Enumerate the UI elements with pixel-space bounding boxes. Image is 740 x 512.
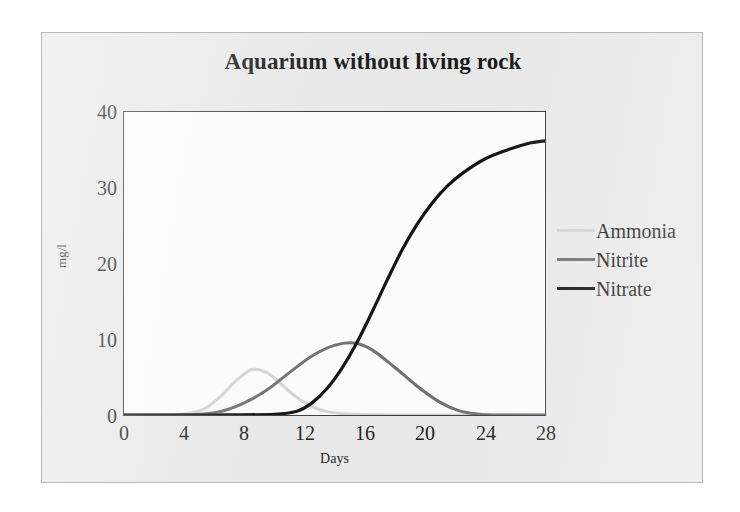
legend-item-nitrate: Nitrate xyxy=(557,274,707,303)
x-axis-tick-labels: 0 4 8 12 16 20 24 28 xyxy=(123,423,546,449)
legend-item-ammonia: Ammonia xyxy=(557,216,707,245)
series-line-ammonia xyxy=(124,369,545,415)
x-tick-0: 0 xyxy=(94,423,154,443)
figure-frame: Aquarium without living rock 40 30 20 10… xyxy=(41,32,703,483)
x-tick-12: 12 xyxy=(275,423,335,443)
x-tick-28: 28 xyxy=(516,423,576,443)
y-tick-40: 40 xyxy=(57,102,117,122)
plot-area xyxy=(123,111,546,416)
y-axis-label: mg/l xyxy=(54,226,70,286)
x-tick-20: 20 xyxy=(395,423,455,443)
legend-line-nitrate xyxy=(557,287,595,290)
x-tick-8: 8 xyxy=(214,423,274,443)
chart-title: Aquarium without living rock xyxy=(42,49,704,75)
legend-line-nitrite xyxy=(557,258,595,261)
figure-page: Aquarium without living rock 40 30 20 10… xyxy=(0,0,740,512)
legend: Ammonia Nitrite Nitrate xyxy=(557,216,707,303)
series-line-nitrate xyxy=(124,141,545,415)
y-tick-30: 30 xyxy=(57,178,117,198)
x-tick-24: 24 xyxy=(456,423,516,443)
legend-label-nitrate: Nitrate xyxy=(596,279,652,299)
plot-curves xyxy=(124,112,545,415)
x-tick-16: 16 xyxy=(335,423,395,443)
legend-item-nitrite: Nitrite xyxy=(557,245,707,274)
legend-line-ammonia xyxy=(557,229,595,232)
legend-label-nitrite: Nitrite xyxy=(596,250,648,270)
legend-label-ammonia: Ammonia xyxy=(596,221,676,241)
y-tick-10: 10 xyxy=(57,330,117,350)
x-tick-4: 4 xyxy=(154,423,214,443)
x-axis-label: Days xyxy=(123,451,546,467)
